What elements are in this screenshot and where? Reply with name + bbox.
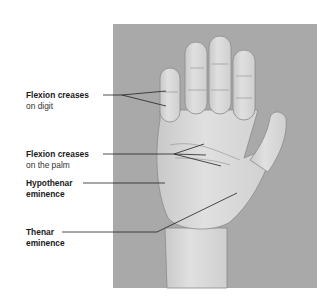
- hand-shape: [157, 36, 286, 288]
- label-hypothenar-eminence: Hypothenar eminence: [26, 178, 73, 200]
- label-flexion-creases-palm: Flexion creases on the palm: [26, 149, 89, 171]
- label-thenar-eminence: Thenar eminence: [26, 227, 65, 249]
- label-flexion-creases-digit: Flexion creases on digit: [26, 90, 89, 112]
